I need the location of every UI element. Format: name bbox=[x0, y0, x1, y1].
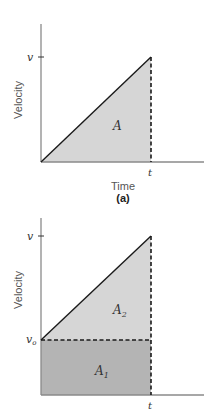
figure-b: v vo t A2 A1 Velocity bbox=[0, 0, 215, 414]
a2-subscript: 2 bbox=[121, 310, 127, 319]
t-tick-label-b: t bbox=[148, 400, 153, 411]
v0-subscript: o bbox=[32, 339, 36, 347]
v-tick-label-b: v bbox=[27, 230, 34, 243]
a1-main: A bbox=[94, 364, 104, 378]
a1-subscript: 1 bbox=[104, 371, 109, 380]
v0-tick-label: vo bbox=[26, 333, 36, 347]
a2-main: A bbox=[112, 303, 122, 317]
y-axis-label-b: Velocity bbox=[12, 271, 24, 309]
